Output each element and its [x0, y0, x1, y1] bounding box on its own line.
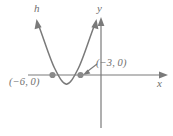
curve-right-arrowhead-icon [91, 19, 98, 29]
x-axis-label: x [157, 78, 162, 89]
curve-left-arrowhead-icon [35, 19, 42, 29]
leader-arrow-right-intercept [83, 64, 97, 75]
x-intercept-dot-right [77, 72, 83, 78]
parabola-figure: h y x (−6, 0) (−3, 0) [0, 0, 173, 136]
annotation-right-intercept: (−3, 0) [96, 58, 127, 69]
annotation-left-intercept: (−6, 0) [9, 77, 40, 88]
graph-canvas [0, 0, 173, 136]
x-intercept-dot-left [49, 72, 55, 78]
curve-label-h: h [34, 3, 40, 14]
y-axis-label: y [97, 3, 102, 14]
y-axis-arrowhead-icon [98, 17, 105, 26]
x-axis [28, 72, 168, 79]
y-axis [98, 17, 105, 128]
